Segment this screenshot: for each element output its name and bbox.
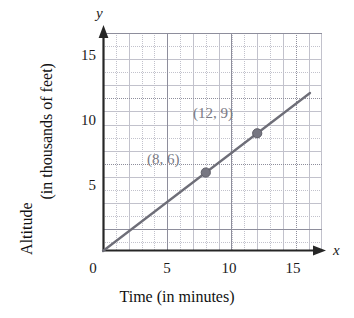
y-axis-title-line-2: (in thousands of feet) bbox=[39, 63, 56, 199]
x-tick-label-0: 0 bbox=[83, 261, 103, 276]
y-axis-title: Altitude (in thousands of feet) bbox=[2, 0, 72, 318]
y-axis-title-line-1: Altitude bbox=[19, 202, 36, 254]
y-axis bbox=[99, 25, 109, 251]
x-axis-symbol: x bbox=[333, 243, 340, 258]
y-axis-symbol: y bbox=[96, 6, 103, 21]
data-point-8-6 bbox=[201, 168, 210, 177]
x-axis bbox=[103, 246, 326, 256]
x-tick-label-15: 15 bbox=[281, 261, 305, 276]
point-annotation-8-6: (8, 6) bbox=[147, 152, 180, 167]
x-tick-label-10: 10 bbox=[217, 261, 241, 276]
data-point-12-9 bbox=[253, 129, 262, 138]
x-tick-label-5: 5 bbox=[157, 261, 177, 276]
point-annotation-12-9: (12, 9) bbox=[193, 106, 233, 121]
chart-figure: y x 15 10 5 0 5 10 15 (8, 6) (12, 9) Tim… bbox=[0, 0, 354, 318]
